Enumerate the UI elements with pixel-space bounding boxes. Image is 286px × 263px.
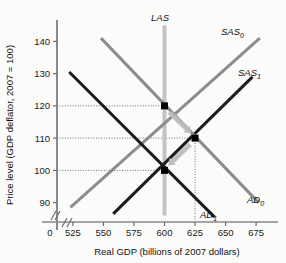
y-tick-label-90: 90 <box>39 197 50 208</box>
x-tick-label-625: 625 <box>187 227 203 238</box>
arrow-a-to-b <box>168 111 192 134</box>
point-c <box>161 167 168 174</box>
chart-canvas: 90100110120130140525550575600625650675 L… <box>0 0 286 263</box>
y-axis-title: Price level (GDP deflator, 2007 = 100) <box>4 45 15 205</box>
y-tick-label-140: 140 <box>34 36 50 47</box>
x-tick-label-550: 550 <box>95 227 111 238</box>
curve-label-ad0: AD0 <box>246 194 264 207</box>
curve-label-ad1: AD1 <box>199 209 217 222</box>
x-tick-label-600: 600 <box>157 227 173 238</box>
x-tick-label-575: 575 <box>126 227 142 238</box>
y-tick-label-130: 130 <box>34 68 50 79</box>
y-tick-label-100: 100 <box>34 165 50 176</box>
y-tick-label-110: 110 <box>35 133 50 144</box>
x-tick-label-650: 650 <box>218 227 234 238</box>
curve-ad1 <box>69 72 214 217</box>
y-tick-label-120: 120 <box>34 100 50 111</box>
curve-sas1 <box>113 77 252 214</box>
point-b <box>192 135 199 142</box>
curve-label-sas0: SAS0 <box>221 26 244 39</box>
as-ad-chart: 90100110120130140525550575600625650675 L… <box>0 0 286 263</box>
curve-label-sas1: SAS1 <box>238 67 261 80</box>
curve-label-las: LAS <box>151 12 170 23</box>
x-axis-title: Real GDP (billions of 2007 dollars) <box>94 246 240 257</box>
x-tick-label-525: 525 <box>65 227 81 238</box>
origin-tick-label: 0 <box>47 227 52 238</box>
x-tick-label-675: 675 <box>248 227 264 238</box>
point-a <box>161 102 168 109</box>
